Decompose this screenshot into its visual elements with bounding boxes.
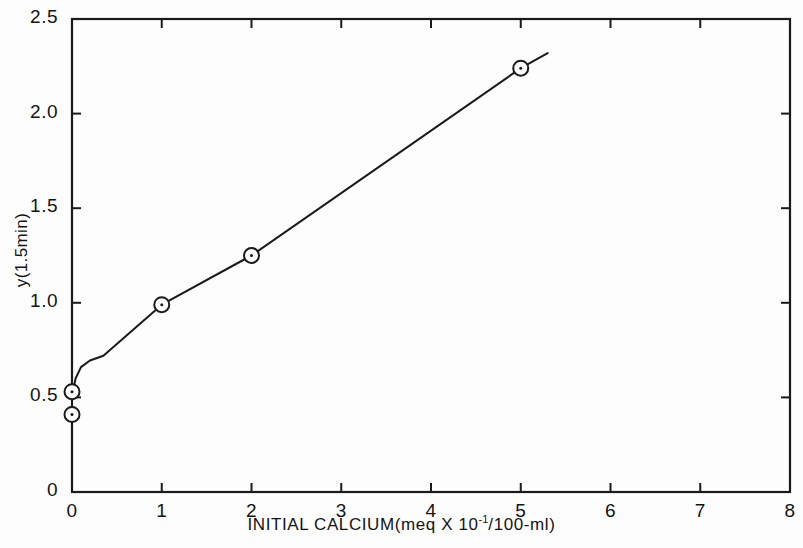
y-axis-title: y(1.5min): [12, 195, 32, 305]
y-tick-label: 0.5: [0, 384, 58, 406]
data-point-center-dot: [519, 67, 522, 70]
y-tick-label: 2.0: [0, 101, 58, 123]
chart-plot-area: [0, 0, 803, 548]
data-markers: [65, 61, 529, 422]
x-axis-title: INITIAL CALCIUM(meq X 10-1/100-ml): [0, 513, 803, 535]
series-line: [72, 53, 548, 395]
x-axis-title-exponent: -1: [479, 513, 489, 525]
data-point-center-dot: [250, 254, 253, 257]
data-point-center-dot: [160, 303, 163, 306]
y-tick-label: 0: [0, 479, 58, 501]
y-tick-label: 2.5: [0, 6, 58, 28]
data-series: [72, 53, 548, 395]
data-point-center-dot: [71, 390, 74, 393]
data-point-center-dot: [71, 413, 74, 416]
figure-canvas: 00.51.01.52.02.5 012345678 INITIAL CALCI…: [0, 0, 803, 548]
axes-frame: [72, 19, 790, 492]
axes-border: [72, 19, 790, 492]
axis-ticks: [72, 19, 790, 492]
